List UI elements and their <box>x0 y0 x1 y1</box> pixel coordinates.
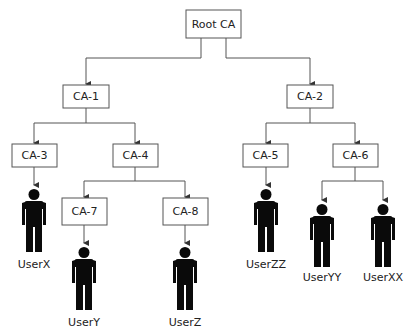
node-label: CA-6 <box>343 149 369 162</box>
connector-ca1-ca3 <box>34 123 86 143</box>
node-label: CA-5 <box>253 149 279 162</box>
ca-hierarchy-diagram: Root CA CA-1 CA-2 CA-3 CA-4 CA-5 CA-6 CA… <box>0 0 409 332</box>
user-label: UserYY <box>303 271 342 284</box>
person-icon <box>22 189 46 252</box>
node-ca-3: CA-3 <box>12 144 57 167</box>
node-ca-1: CA-1 <box>63 85 109 108</box>
node-root-ca: Root CA <box>186 10 241 38</box>
person-icon <box>173 247 197 310</box>
node-label: CA-1 <box>73 90 99 103</box>
person-icon <box>254 189 278 252</box>
node-ca-2: CA-2 <box>287 85 333 108</box>
user-label: UserY <box>68 316 100 329</box>
node-label: CA-2 <box>297 90 323 103</box>
person-icon <box>72 247 96 310</box>
node-ca-7: CA-7 <box>62 198 107 225</box>
connector-root-ca1 <box>86 38 201 84</box>
connector-ca4-ca8 <box>135 181 185 197</box>
node-label: CA-8 <box>173 205 199 218</box>
node-ca-5: CA-5 <box>243 144 288 167</box>
connector-ca2-ca5 <box>266 123 310 143</box>
connector-ca6-useryy <box>322 181 355 200</box>
connector-ca6-userxx <box>355 181 383 200</box>
user-label: UserZZ <box>246 258 287 271</box>
node-ca-8: CA-8 <box>163 198 208 225</box>
node-useryy: UserYY <box>303 204 342 284</box>
user-label: UserZ <box>169 316 202 329</box>
node-userxx: UserXX <box>363 204 404 284</box>
node-label: CA-3 <box>22 149 48 162</box>
connector-ca1-ca4 <box>86 123 135 143</box>
connector-ca2-ca6 <box>310 123 355 143</box>
node-label: CA-4 <box>123 149 149 162</box>
node-userx: UserX <box>18 189 51 271</box>
node-ca-4: CA-4 <box>113 144 158 167</box>
user-label: UserX <box>18 258 51 271</box>
node-userzz: UserZZ <box>246 189 287 271</box>
node-label: CA-7 <box>72 205 98 218</box>
user-label: UserXX <box>363 271 404 284</box>
node-label: Root CA <box>192 18 236 31</box>
node-userz: UserZ <box>169 247 202 329</box>
node-ca-6: CA-6 <box>333 144 378 167</box>
connector-root-ca2 <box>226 38 310 84</box>
person-icon <box>310 204 334 267</box>
node-usery: UserY <box>68 247 100 329</box>
person-icon <box>371 204 395 267</box>
connector-ca4-ca7 <box>84 181 135 197</box>
